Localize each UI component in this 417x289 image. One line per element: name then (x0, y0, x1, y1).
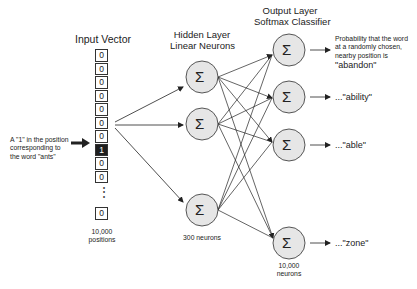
sigma-icon: Σ (195, 115, 204, 132)
annotation-line: A "1" in the position (10, 136, 68, 144)
hidden-title-line: Linear Neurons (170, 40, 234, 51)
output-count-label: 10,000 neurons (269, 262, 309, 279)
sigma-icon: Σ (282, 41, 291, 58)
output-description: Probability that the word at a randomly … (335, 35, 408, 60)
input-cell: 0 (95, 76, 108, 89)
input-cell-last: 0 (95, 207, 108, 220)
sigma-icon: Σ (195, 201, 204, 218)
input-cell-active: 1 (95, 144, 108, 157)
input-count-unit: positions (82, 236, 122, 244)
output-arrows (310, 50, 330, 243)
annotation-line: corresponding to (10, 144, 68, 152)
input-count-label: 10,000 positions (82, 228, 122, 245)
output-count-unit: neurons (269, 270, 309, 278)
annotation-arrow (71, 138, 90, 148)
output-desc-line: nearby position is (335, 52, 408, 60)
hidden-count-label: 300 neurons (180, 234, 224, 242)
sigma-icon: Σ (195, 68, 204, 85)
sigma-icon: Σ (282, 88, 291, 105)
output-word-ability: ..."ability" (335, 92, 372, 102)
input-cell: 0 (95, 90, 108, 103)
input-cell: 0 (95, 130, 108, 143)
hidden-layer-title: Hidden Layer Linear Neurons (170, 29, 234, 51)
input-annotation: A "1" in the position corresponding to t… (10, 136, 68, 161)
output-word-zone: ..."zone" (335, 238, 368, 248)
output-layer-title: Output Layer Softmax Classifier (254, 5, 326, 27)
input-to-hidden-edges (115, 87, 183, 202)
output-word-able: ..."able" (335, 140, 366, 150)
output-title-line: Output Layer (254, 5, 326, 16)
output-desc-line: Probability that the word (335, 35, 408, 43)
input-cell: 0 (95, 171, 108, 184)
input-cell: 0 (95, 157, 108, 170)
hidden-title-line: Hidden Layer (170, 29, 234, 40)
sigma-icon: Σ (282, 136, 291, 153)
output-count-value: 10,000 (269, 262, 309, 270)
input-count-value: 10,000 (82, 228, 122, 236)
input-cell: 0 (95, 63, 108, 76)
output-desc-line: at a randomly chosen, (335, 43, 408, 51)
output-title-line: Softmax Classifier (254, 16, 326, 27)
input-cell: 0 (95, 117, 108, 130)
input-vector-title: Input Vector (75, 33, 129, 45)
sigma-icon: Σ (282, 234, 291, 251)
input-cell: 0 (95, 49, 108, 62)
ellipsis-icon: ⋮ (97, 184, 107, 200)
hidden-to-output-edges (218, 55, 273, 238)
input-cell: 0 (95, 103, 108, 116)
annotation-line: the word "ants" (10, 153, 68, 161)
output-word-abandon: "abandon" (335, 60, 376, 70)
